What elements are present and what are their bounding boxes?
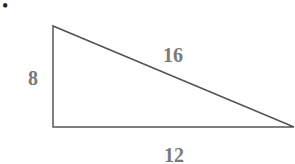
triangle-diagram: • 8 16 12 [0,0,295,164]
vertical-side-label: 8 [28,67,38,89]
right-triangle-shape [53,26,294,127]
bullet-marker: • [2,0,8,16]
base-side-label: 12 [164,144,184,164]
hypotenuse-label: 16 [163,44,183,66]
